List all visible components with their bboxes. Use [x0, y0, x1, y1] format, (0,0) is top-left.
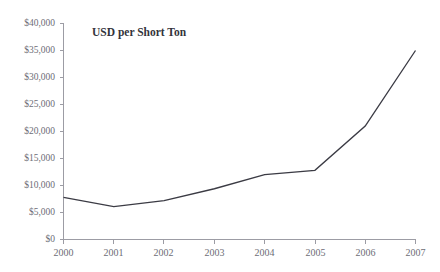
y-axis-label-0: $0	[46, 234, 56, 244]
x-axis-label-2007: 2007	[406, 247, 426, 258]
y-axis-label-25000: $25,000	[24, 99, 55, 109]
y-axis-label-15000: $15,000	[24, 153, 55, 163]
y-axis-label-20000: $20,000	[24, 126, 55, 136]
x-axis-label-2003: 2003	[205, 247, 225, 258]
x-axis-label-2004: 2004	[255, 247, 275, 258]
y-axis-group: $40,000 $35,000 $30,000 $25,000 $20,000 …	[24, 18, 63, 244]
chart-title: USD per Short Ton	[92, 26, 187, 39]
x-axis-group: 2000 2001 2002 2003 2004 2005 2006 2007	[54, 240, 426, 259]
y-axis-label-10000: $10,000	[24, 180, 55, 190]
x-axis-label-2002: 2002	[154, 247, 174, 258]
y-axis-label-30000: $30,000	[24, 72, 55, 82]
y-axis-label-35000: $35,000	[24, 45, 55, 55]
y-axis-label-5000: $5,000	[29, 207, 55, 217]
line-chart-svg: $40,000 $35,000 $30,000 $25,000 $20,000 …	[0, 0, 440, 272]
x-axis-label-2001: 2001	[104, 247, 124, 258]
y-axis-label-40000: $40,000	[24, 18, 55, 28]
data-series-line	[64, 51, 416, 207]
x-axis-label-2000: 2000	[54, 247, 74, 258]
x-axis-label-2006: 2006	[356, 247, 376, 258]
x-axis-label-2005: 2005	[306, 247, 326, 258]
chart-container: $40,000 $35,000 $30,000 $25,000 $20,000 …	[0, 0, 440, 272]
